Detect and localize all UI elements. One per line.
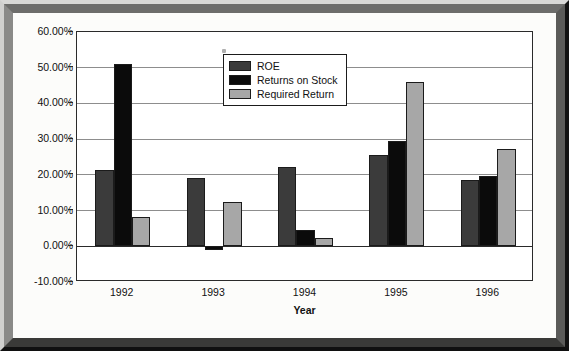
gridline	[77, 174, 532, 175]
chart-legend: ROEReturns on StockRequired Return	[223, 54, 347, 106]
chart-screenshot: 60.00%50.00%40.00%30.00%20.00%10.00%0.00…	[0, 0, 569, 351]
y-axis-tick-mark	[68, 245, 73, 246]
x-axis-tick-label: 1996	[476, 286, 499, 298]
scan-speck	[222, 49, 226, 53]
gridline	[77, 139, 532, 140]
y-axis: 60.00%50.00%40.00%30.00%20.00%10.00%0.00…	[13, 31, 73, 281]
bar	[479, 176, 497, 246]
bar	[406, 82, 424, 247]
bar	[278, 167, 296, 247]
bar	[369, 155, 387, 246]
y-axis-tick-mark	[68, 281, 73, 282]
y-axis-tick-mark	[68, 66, 73, 67]
bar	[132, 217, 150, 246]
y-axis-tick-mark	[68, 138, 73, 139]
bar	[95, 170, 113, 247]
x-axis-tick-label: 1994	[293, 286, 316, 298]
bar	[497, 149, 515, 246]
legend-label: ROE	[257, 60, 280, 72]
bar	[315, 238, 333, 246]
legend-swatch-icon	[229, 61, 251, 71]
y-axis-tick-mark	[68, 31, 73, 32]
legend-item: ROE	[229, 59, 338, 73]
bar	[388, 141, 406, 246]
chart-canvas: 60.00%50.00%40.00%30.00%20.00%10.00%0.00…	[13, 13, 556, 338]
y-axis-tick-mark	[68, 173, 73, 174]
bar	[187, 178, 205, 247]
bar	[296, 230, 314, 246]
legend-label: Required Return	[257, 88, 334, 100]
y-axis-tick-mark	[68, 102, 73, 103]
x-axis-tick-label: 1992	[110, 286, 133, 298]
legend-label: Returns on Stock	[257, 74, 338, 86]
legend-item: Returns on Stock	[229, 73, 338, 87]
legend-item: Required Return	[229, 87, 338, 101]
bar	[223, 202, 241, 246]
y-axis-tick-mark	[68, 209, 73, 210]
legend-swatch-icon	[229, 89, 251, 99]
bar	[114, 64, 132, 247]
legend-swatch-icon	[229, 75, 251, 85]
x-axis-tick-label: 1995	[384, 286, 407, 298]
bar	[205, 246, 223, 250]
x-axis-tick-label: 1993	[201, 286, 224, 298]
bar	[461, 180, 479, 246]
x-axis-title: Year	[76, 304, 533, 316]
